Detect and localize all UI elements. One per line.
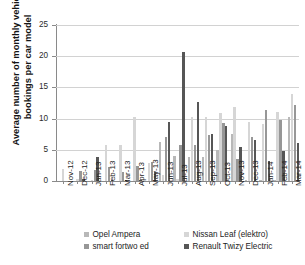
x-tick-mark [106, 181, 107, 184]
bar [62, 169, 64, 181]
y-tick-mark [52, 181, 56, 182]
x-tick-mark [135, 181, 136, 184]
x-tick-label: Aug-13 [195, 160, 203, 186]
x-tick-mark [206, 181, 207, 184]
bar-group [202, 25, 213, 181]
legend-swatch-icon [184, 232, 189, 237]
x-tick-mark [249, 181, 250, 184]
bar-group [259, 25, 270, 181]
legend-swatch-icon [84, 244, 89, 249]
x-tick-label: Mar-14 [295, 161, 303, 186]
x-tick-mark [120, 181, 121, 184]
legend-label: Renault Twizy Electric [193, 242, 273, 251]
bar [182, 52, 184, 181]
bar-group [73, 25, 84, 181]
legend-row: Opel Ampera Nissan Leaf (elektro) [84, 228, 284, 240]
y-tick-label: 5 [26, 146, 48, 154]
x-tick-label: Mar-13 [124, 161, 132, 186]
chart-legend: Opel Ampera Nissan Leaf (elektro) smart … [84, 228, 284, 252]
x-tick-label: Apr-13 [138, 162, 146, 186]
bar-group [173, 25, 184, 181]
x-tick-label: Nov-12 [67, 160, 75, 186]
x-tick-mark [235, 181, 236, 184]
y-tick-label: 20 [26, 52, 48, 60]
bar-group [116, 25, 127, 181]
x-tick-label: Jan-14 [267, 162, 275, 186]
x-tick-label: Dec-13 [252, 160, 260, 186]
bar-group [102, 25, 113, 181]
bar-group [188, 25, 199, 181]
bar-group [130, 25, 141, 181]
bar-group [88, 25, 99, 181]
x-tick-mark [92, 181, 93, 184]
x-tick-mark [263, 181, 264, 184]
x-tick-label: Oct-13 [224, 162, 232, 186]
y-tick-label: 15 [26, 83, 48, 91]
x-tick-mark [63, 181, 64, 184]
bar-group [59, 25, 70, 181]
legend-row: smart fortwo ed Renault Twizy Electric [84, 240, 284, 252]
x-tick-mark [77, 181, 78, 184]
x-tick-label: Feb-13 [109, 161, 117, 186]
x-tick-label: May-13 [152, 159, 160, 186]
x-tick-mark [178, 181, 179, 184]
y-tick-label: 25 [26, 21, 48, 29]
legend-item-smart-fortwo-ed[interactable]: smart fortwo ed [84, 240, 184, 252]
y-tick-label: 10 [26, 115, 48, 123]
x-tick-label: Feb-14 [281, 161, 289, 186]
legend-item-renault-twizy-electric[interactable]: Renault Twizy Electric [184, 240, 284, 252]
bar-group [159, 25, 170, 181]
bar-group [245, 25, 256, 181]
x-tick-mark [163, 181, 164, 184]
x-tick-label: Jul-13 [181, 164, 189, 186]
x-tick-mark [149, 181, 150, 184]
x-tick-label: Jan-13 [95, 162, 103, 186]
legend-label: Nissan Leaf (elektro) [193, 230, 269, 239]
legend-item-nissan-leaf[interactable]: Nissan Leaf (elektro) [184, 228, 284, 240]
legend-swatch-icon [184, 244, 189, 249]
x-tick-mark [220, 181, 221, 184]
legend-label: smart fortwo ed [93, 242, 149, 251]
legend-item-opel-ampera[interactable]: Opel Ampera [84, 228, 184, 240]
x-tick-label: Nov-13 [238, 160, 246, 186]
legend-label: Opel Ampera [93, 230, 141, 239]
bar-group [145, 25, 156, 181]
x-tick-label: Jun-13 [167, 162, 175, 186]
x-tick-mark [278, 181, 279, 184]
x-tick-mark [192, 181, 193, 184]
legend-swatch-icon [84, 232, 89, 237]
bar-group [231, 25, 242, 181]
x-tick-mark [292, 181, 293, 184]
y-tick-label: 0 [26, 177, 48, 185]
plot-area [56, 25, 299, 181]
bar-group [273, 25, 284, 181]
bar-chart: Average number of monthly vehicle bookin… [0, 0, 305, 265]
bar-group [216, 25, 227, 181]
x-tick-label: Sep-13 [209, 160, 217, 186]
bar-group [288, 25, 299, 181]
x-tick-label: Dec-12 [81, 160, 89, 186]
